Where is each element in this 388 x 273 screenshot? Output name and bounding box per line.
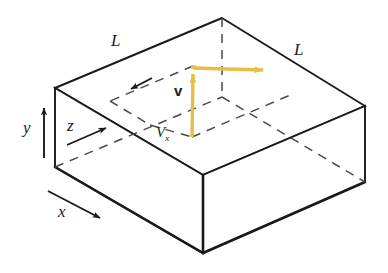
label-axis-x: x	[58, 203, 66, 220]
axis-arrow-x	[48, 191, 100, 218]
label-velocity-vector: v	[174, 83, 182, 98]
physics-diagram-cube-velocity: L L y z x v Vx	[0, 0, 388, 273]
label-axis-z: z	[67, 117, 74, 134]
label-length-left: L	[111, 32, 120, 49]
label-axis-y: y	[23, 119, 31, 136]
label-velocity-component-x-base: V	[156, 124, 165, 140]
cube-solid-edges	[55, 18, 365, 253]
label-velocity-component-x: Vx	[156, 125, 169, 143]
cube-vector-svg	[0, 0, 388, 273]
label-velocity-component-x-subscript: x	[165, 133, 169, 143]
label-length-right: L	[294, 41, 303, 58]
